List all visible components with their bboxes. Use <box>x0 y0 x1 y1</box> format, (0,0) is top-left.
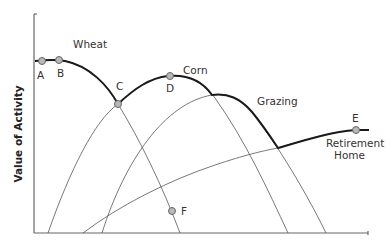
point-d-label: D <box>166 82 174 94</box>
activity-value-diagram: Value of Activity A B C D E F Wheat Corn… <box>0 0 388 250</box>
point-a-label: A <box>37 69 45 81</box>
point-e-marker <box>353 127 360 134</box>
retirement-label-line1: Retirement <box>326 137 384 149</box>
corn-label: Corn <box>183 64 208 76</box>
points <box>39 57 360 215</box>
grazing-label: Grazing <box>257 95 298 107</box>
point-f-label: F <box>181 205 187 217</box>
point-c-marker <box>115 101 122 108</box>
wheat-label: Wheat <box>73 38 107 50</box>
corn-curve <box>48 76 288 233</box>
point-e-label: E <box>352 112 359 124</box>
point-b-label: B <box>57 67 64 79</box>
wheat-curve <box>35 60 180 233</box>
point-d-marker <box>167 73 174 80</box>
point-c-label: C <box>116 80 123 92</box>
y-axis-label: Value of Activity <box>12 85 24 182</box>
retirement-label-line2: Home <box>334 149 365 161</box>
point-a-marker <box>39 58 46 65</box>
point-b-marker <box>56 57 63 64</box>
grazing-curve <box>102 95 326 233</box>
thin-curves <box>35 60 369 233</box>
point-f-marker <box>169 208 176 215</box>
